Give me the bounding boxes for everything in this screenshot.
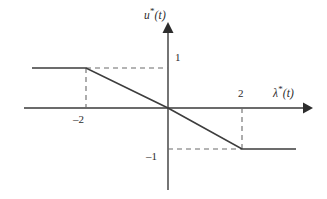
- y-axis-title: u*(t): [144, 7, 166, 21]
- x-tick-label-positive-two: 2: [238, 88, 244, 99]
- saturation-function-figure: u*(t) λ*(t) 1 –1 –2 2: [0, 0, 327, 199]
- x-axis-title: λ*(t): [273, 85, 294, 99]
- x-axis-arrowhead: [303, 103, 313, 114]
- x-tick-label-negative-two: –2: [73, 114, 84, 125]
- y-axis-title-argument: (t): [154, 9, 165, 21]
- y-tick-label-positive-one: 1: [175, 52, 181, 63]
- y-axis-arrowhead: [163, 22, 174, 33]
- x-axis-title-argument: (t): [283, 87, 294, 99]
- plot-canvas: [0, 0, 327, 199]
- y-tick-label-negative-one: –1: [146, 151, 157, 162]
